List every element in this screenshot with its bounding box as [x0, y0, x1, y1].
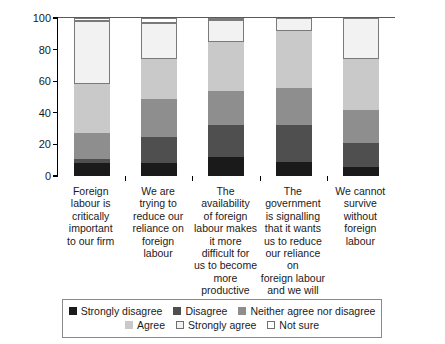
x-axis-label-line: labour makes — [192, 222, 259, 234]
x-axis-label-line: labour — [327, 235, 394, 247]
x-axis-label-line: and we will — [259, 284, 326, 296]
x-axis-label-line: trying to — [124, 197, 191, 209]
x-axis-label-line: foreign — [124, 235, 191, 247]
y-tick-label: 80 — [39, 44, 51, 56]
bar-segment — [74, 84, 110, 133]
bar-group — [260, 18, 327, 176]
legend-label: Not sure — [279, 319, 319, 331]
legend-label: Strongly disagree — [81, 305, 163, 317]
legend-label: Disagree — [185, 305, 227, 317]
bar-segment — [74, 163, 110, 176]
x-axis-label-line: labour — [124, 247, 191, 259]
bar-segment — [276, 18, 312, 31]
x-axis-label: We aretrying toreduce ourreliance onfore… — [124, 185, 191, 259]
x-axis-label: Thegovernmentis signallingthat it wantsu… — [259, 185, 326, 297]
stacked-bar-chart: Percentage 020406080100 Foreignlabour is… — [0, 0, 445, 344]
bar-group — [125, 18, 192, 176]
x-axis-label-line: of foreign — [192, 210, 259, 222]
bar-segment — [208, 157, 244, 176]
bar-segment — [276, 162, 312, 176]
bar-segment — [74, 18, 110, 21]
x-axis-label-line: important — [57, 222, 124, 234]
x-axis-label: Foreignlabour iscriticallyimportantto ou… — [57, 185, 124, 247]
x-axis-label-line: labour is — [57, 197, 124, 209]
x-axis-label-line: foreign labour — [259, 272, 326, 284]
legend-swatch — [176, 321, 184, 329]
x-axis-label-line: critically — [57, 210, 124, 222]
bar-segment — [343, 167, 379, 176]
y-tick-label: 40 — [39, 107, 51, 119]
x-axis-label: We cannotsurvivewithoutforeignlabour — [327, 185, 394, 247]
bar-stack — [141, 18, 177, 176]
x-axis-label-line: foreign — [327, 222, 394, 234]
bar-group — [328, 18, 395, 176]
bar-segment — [141, 23, 177, 59]
legend-item[interactable]: Agree — [125, 319, 165, 331]
x-axis-label-line: is signalling — [259, 210, 326, 222]
bar-segment — [343, 59, 379, 110]
bar-segment — [74, 159, 110, 164]
bar-segment — [74, 133, 110, 158]
bar-series-container — [58, 18, 395, 176]
x-axis-label-line: more — [192, 272, 259, 284]
legend-swatch — [173, 307, 181, 315]
x-axis-label-line: us to become — [192, 259, 259, 271]
x-axis-label-line: to our firm — [57, 235, 124, 247]
bar-group — [58, 18, 125, 176]
legend-item[interactable]: Strongly agree — [176, 319, 256, 331]
bar-segment — [343, 110, 379, 143]
bar-stack — [343, 18, 379, 176]
bar-segment — [276, 31, 312, 88]
legend-item[interactable]: Strongly disagree — [69, 305, 163, 317]
x-axis-category-labels: Foreignlabour iscriticallyimportantto ou… — [57, 185, 394, 290]
x-tick-mark — [125, 176, 126, 181]
legend-item[interactable]: Neither agree nor disagree — [238, 305, 375, 317]
plot-area: 020406080100 — [57, 18, 395, 176]
chart-legend: Strongly disagreeDisagreeNeither agree n… — [62, 299, 382, 338]
x-axis-label-line: productive — [192, 284, 259, 296]
legend-row: AgreeStrongly agreeNot sure — [69, 318, 375, 332]
bar-group — [193, 18, 260, 176]
x-axis-label-line: our reliance on — [259, 247, 326, 272]
x-axis-label-line: that it wants — [259, 222, 326, 234]
legend-label: Strongly agree — [188, 319, 256, 331]
legend-item[interactable]: Disagree — [173, 305, 227, 317]
legend-row: Strongly disagreeDisagreeNeither agree n… — [69, 304, 375, 318]
bar-segment — [141, 59, 177, 99]
x-axis-label-line: government — [259, 197, 326, 209]
bar-segment — [208, 18, 244, 20]
bar-segment — [208, 42, 244, 91]
bar-segment — [276, 88, 312, 126]
x-tick-mark — [327, 176, 328, 181]
bar-segment — [208, 125, 244, 157]
legend-swatch — [69, 307, 77, 315]
y-tick-label: 20 — [39, 138, 51, 150]
bar-segment — [141, 137, 177, 164]
bar-stack — [74, 18, 110, 176]
x-axis-label-line: survive — [327, 197, 394, 209]
x-axis-label-line: We are — [124, 185, 191, 197]
bar-segment — [208, 91, 244, 126]
legend-swatch — [238, 307, 246, 315]
legend-label: Agree — [137, 319, 165, 331]
legend-label: Neither agree nor disagree — [250, 305, 375, 317]
x-axis-label-line: The availability — [192, 185, 259, 210]
legend-item[interactable]: Not sure — [267, 319, 319, 331]
legend-swatch — [267, 321, 275, 329]
x-axis-label-line: reliance on — [124, 222, 191, 234]
bar-segment — [343, 18, 379, 59]
y-tick-label: 0 — [45, 170, 51, 182]
bar-segment — [141, 18, 177, 23]
bar-segment — [141, 99, 177, 137]
x-axis-label-line: The — [259, 185, 326, 197]
x-axis-label-line: difficult for — [192, 247, 259, 259]
y-tick-label: 100 — [33, 12, 51, 24]
x-axis-label-line: We cannot — [327, 185, 394, 197]
x-axis-label-line: us to reduce — [259, 235, 326, 247]
bar-stack — [208, 18, 244, 176]
x-tick-mark — [260, 176, 261, 181]
x-axis-label-line: reduce our — [124, 210, 191, 222]
bar-stack — [276, 18, 312, 176]
bar-segment — [141, 163, 177, 176]
bar-segment — [74, 21, 110, 84]
